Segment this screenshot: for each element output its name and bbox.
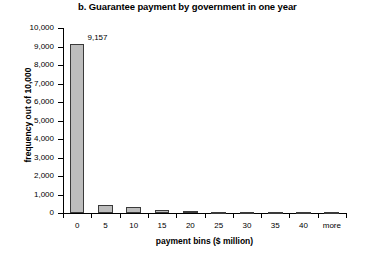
- x-axis-tick: [205, 213, 206, 218]
- x-axis-tick: [261, 213, 262, 218]
- bar: [183, 211, 198, 213]
- x-axis-tick: [176, 213, 177, 218]
- y-axis-line: [63, 28, 64, 214]
- bar-value-label: 9,157: [88, 34, 108, 42]
- bar: [126, 207, 141, 213]
- bar: [324, 212, 339, 214]
- bar: [240, 212, 255, 214]
- x-axis-tick: [63, 213, 64, 218]
- y-axis-tick-label: 8,000: [8, 61, 54, 69]
- y-axis-tick-label: 6,000: [8, 98, 54, 106]
- y-axis-tick-label: 10,000: [8, 24, 54, 32]
- y-axis-tick-label: 5,000: [8, 117, 54, 125]
- y-axis-tick: [58, 158, 63, 159]
- x-axis-tick: [120, 213, 121, 218]
- x-axis-title: payment bins ($ million): [63, 236, 346, 246]
- y-axis-tick-label: 2,000: [8, 172, 54, 180]
- chart-title: b. Guarantee payment by government in on…: [78, 1, 348, 12]
- y-axis-tick-label: 7,000: [8, 80, 54, 88]
- y-axis-tick: [58, 121, 63, 122]
- x-axis-tick: [91, 213, 92, 218]
- x-axis-tick-label: more: [312, 221, 352, 230]
- y-axis-tick: [58, 47, 63, 48]
- y-axis-tick-label: 0: [8, 209, 54, 217]
- x-axis-tick: [233, 213, 234, 218]
- y-axis-tick-label: 4,000: [8, 135, 54, 143]
- y-axis-tick: [58, 102, 63, 103]
- y-axis-tick: [58, 65, 63, 66]
- y-axis-tick: [58, 84, 63, 85]
- bar: [70, 44, 85, 213]
- x-axis-tick: [289, 213, 290, 218]
- y-axis-tick-label: 1,000: [8, 191, 54, 199]
- y-axis-tick-label: 9,000: [8, 43, 54, 51]
- y-axis-tick: [58, 28, 63, 29]
- y-axis-tick-label: 3,000: [8, 154, 54, 162]
- y-axis-tick: [58, 195, 63, 196]
- x-axis-tick: [318, 213, 319, 218]
- x-axis-tick: [346, 213, 347, 218]
- bar: [155, 210, 170, 213]
- bar: [98, 205, 113, 213]
- bar: [296, 212, 311, 214]
- chart-container: b. Guarantee payment by government in on…: [0, 0, 370, 258]
- y-axis-tick: [58, 139, 63, 140]
- bar: [268, 212, 283, 214]
- bar: [211, 212, 226, 214]
- x-axis-tick: [148, 213, 149, 218]
- y-axis-tick: [58, 176, 63, 177]
